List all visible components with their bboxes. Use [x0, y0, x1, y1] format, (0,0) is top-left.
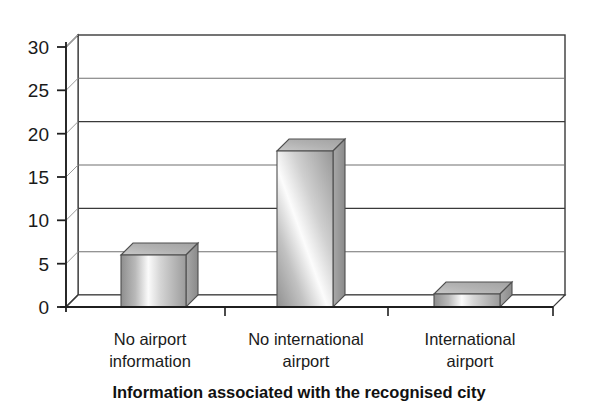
bar-top-face	[434, 282, 512, 294]
category-label-1-line-2: information	[109, 352, 191, 370]
y-tick-label-5: 5	[38, 254, 49, 275]
bar-side-face	[333, 139, 345, 307]
bar-top-face	[121, 243, 198, 255]
y-tick-label-25: 25	[28, 80, 49, 101]
category-label-2-line-1: No international	[248, 330, 364, 348]
category-label-2-line-2: airport	[283, 352, 330, 370]
bar-front-face	[434, 294, 500, 307]
y-tick-label-20: 20	[28, 124, 49, 145]
bar-no-airport-information	[121, 243, 198, 307]
x-axis-title: Information associated with the recognis…	[112, 383, 486, 401]
bar-side-face	[186, 243, 198, 307]
category-label-3-line-2: airport	[447, 352, 494, 370]
y-tick-label-10: 10	[28, 210, 49, 231]
y-tick-label-0: 0	[38, 297, 49, 318]
bar-no-international-airport	[277, 139, 345, 307]
category-label-1-line-1: No airport	[114, 330, 187, 348]
y-tick-label-30: 30	[28, 37, 49, 58]
bar-international-airport	[434, 282, 512, 307]
bar-front-face	[121, 255, 186, 307]
y-tick-label-15: 15	[28, 167, 49, 188]
chart-canvas: 30 25 20 15 10 5 0	[0, 0, 598, 409]
category-label-3-line-1: International	[425, 330, 516, 348]
bar-front-face	[277, 151, 333, 307]
bar-chart: 30 25 20 15 10 5 0	[0, 0, 598, 409]
